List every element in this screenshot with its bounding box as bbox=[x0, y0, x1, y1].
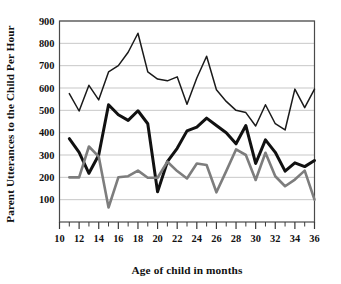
chart-figure: 100200300400500600700800900 101214161820… bbox=[0, 0, 341, 284]
y-tick-label-800: 800 bbox=[39, 38, 55, 49]
x-tick-label-14: 14 bbox=[94, 233, 104, 244]
y-tick-label-100: 100 bbox=[39, 194, 55, 205]
x-tick-label-36: 36 bbox=[309, 233, 319, 244]
y-tick-label-700: 700 bbox=[39, 60, 55, 71]
x-tick-label-20: 20 bbox=[152, 233, 162, 244]
y-tick-label-500: 500 bbox=[39, 105, 55, 116]
x-tick-label-34: 34 bbox=[290, 233, 300, 244]
y-tick-label-900: 900 bbox=[39, 16, 55, 27]
x-tick-label-18: 18 bbox=[133, 233, 143, 244]
x-tick-label-22: 22 bbox=[172, 233, 182, 244]
y-axis-tick-labels: 100200300400500600700800900 bbox=[39, 16, 55, 206]
x-axis-title: Age of child in months bbox=[132, 264, 243, 276]
x-tick-label-12: 12 bbox=[74, 233, 84, 244]
x-tick-label-16: 16 bbox=[113, 233, 123, 244]
y-tick-label-400: 400 bbox=[39, 127, 55, 138]
y-tick-label-300: 300 bbox=[39, 150, 55, 161]
x-tick-label-10: 10 bbox=[54, 233, 64, 244]
x-tick-label-30: 30 bbox=[250, 233, 260, 244]
y-tick-label-200: 200 bbox=[39, 172, 55, 183]
y-tick-label-600: 600 bbox=[39, 83, 55, 94]
x-tick-label-26: 26 bbox=[211, 233, 221, 244]
x-tick-label-24: 24 bbox=[192, 233, 202, 244]
y-axis-title: Parent Utterances to the Child Per Hour bbox=[4, 25, 16, 222]
line-chart: 100200300400500600700800900 101214161820… bbox=[0, 0, 341, 284]
x-tick-label-28: 28 bbox=[231, 233, 241, 244]
x-tick-label-32: 32 bbox=[270, 233, 280, 244]
